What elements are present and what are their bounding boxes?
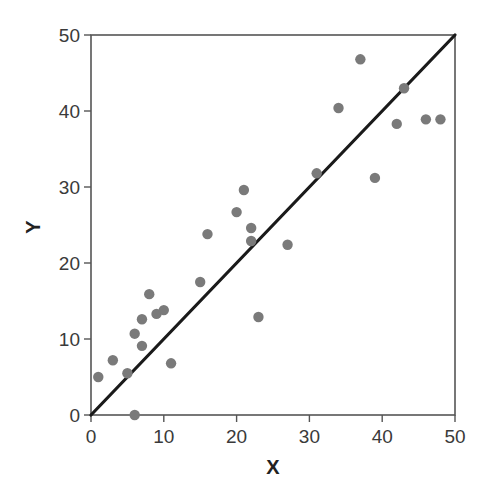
y-tick-label: 20 [59, 253, 80, 274]
data-point [311, 168, 321, 178]
data-point [93, 372, 103, 382]
data-point [137, 314, 147, 324]
y-tick-label: 10 [59, 329, 80, 350]
data-point [159, 305, 169, 315]
data-point [435, 114, 445, 124]
data-point [108, 355, 118, 365]
data-point [129, 328, 139, 338]
data-point [399, 83, 409, 93]
y-tick-label: 40 [59, 101, 80, 122]
x-tick-label: 40 [372, 426, 393, 447]
x-tick-label: 20 [226, 426, 247, 447]
data-point [239, 185, 249, 195]
scatter-chart: 0102030405001020304050 X Y [0, 0, 487, 494]
x-axis-title: X [266, 456, 280, 478]
y-tick-label: 0 [69, 405, 80, 426]
data-point [166, 358, 176, 368]
y-tick-label: 50 [59, 25, 80, 46]
data-point [370, 173, 380, 183]
x-tick-label: 0 [86, 426, 97, 447]
data-point [282, 240, 292, 250]
data-point [195, 277, 205, 287]
x-tick-label: 10 [153, 426, 174, 447]
y-axis-title: Y [22, 220, 44, 234]
x-tick-label: 30 [299, 426, 320, 447]
y-tick-label: 30 [59, 177, 80, 198]
data-point [421, 114, 431, 124]
data-point [246, 223, 256, 233]
data-point [137, 341, 147, 351]
data-point [355, 54, 365, 64]
data-point [144, 289, 154, 299]
data-point [246, 236, 256, 246]
data-point [122, 368, 132, 378]
data-point [202, 229, 212, 239]
data-point [392, 119, 402, 129]
data-point [253, 312, 263, 322]
data-point [129, 410, 139, 420]
x-tick-label: 50 [444, 426, 465, 447]
data-point [231, 207, 241, 217]
data-point [333, 103, 343, 113]
